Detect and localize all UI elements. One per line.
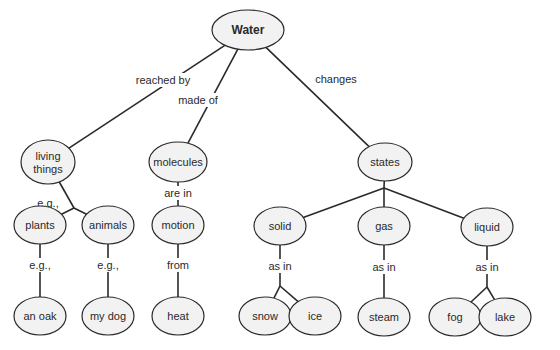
node-label: gas [375,220,393,232]
concept-node-plants: plants [14,206,66,244]
node-label: snow [252,310,278,322]
link-label: e.g., [29,259,50,271]
node-label: heat [167,310,188,322]
edge-water-states [266,47,369,146]
link-label: made of [178,94,219,106]
concept-node-living: livingthings [21,140,75,184]
concept-node-lake: lake [479,298,531,336]
node-label: things [33,163,63,175]
concept-node-states: states [358,143,412,181]
edge-junction-snow [274,286,280,298]
node-label: living [35,150,60,162]
link-label: as in [372,261,395,273]
edge-junction-ice [280,286,298,302]
edge-junction-lake [487,287,495,300]
node-label: an oak [23,310,57,322]
node-label: liquid [474,221,500,233]
concept-node-anoak: an oak [14,297,66,335]
node-label: states [370,156,400,168]
link-label: reached by [136,74,191,86]
concept-node-animals: animals [82,206,134,244]
node-label: my dog [90,310,126,322]
concept-node-heat: heat [152,297,204,335]
link-label: from [167,259,189,271]
concept-node-ice: ice [289,297,341,335]
concept-node-snow: snow [239,297,291,335]
concept-node-steam: steam [358,298,410,336]
edge-junction-animals [74,208,87,214]
node-label: ice [308,310,322,322]
nodes-layer: Waterlivingthingsmoleculesstatesplantsan… [14,10,531,336]
concept-node-solid: solid [254,207,306,245]
node-label: solid [269,220,292,232]
concept-node-motion: motion [152,206,204,244]
link-label: are in [164,187,192,199]
node-label: molecules [153,156,203,168]
concept-node-fog: fog [429,298,481,336]
link-label: changes [315,73,357,85]
node-label: motion [161,219,194,231]
edge-junction-fog [471,287,487,302]
node-label: Water [232,23,265,37]
node-label: lake [495,311,515,323]
node-label: plants [25,219,55,231]
concept-map-water: reached bymade ofchangese.g.,are incan b… [0,0,560,350]
concept-node-liquid: liquid [461,208,513,246]
concept-node-molecules: molecules [149,142,207,182]
concept-node-gas: gas [358,207,410,245]
node-label: animals [89,219,127,231]
concept-node-water: Water [212,10,284,50]
node-label: fog [447,311,462,323]
link-labels-layer: reached bymade ofchangese.g.,are incan b… [23,72,504,274]
concept-node-mydog: my dog [82,297,134,335]
link-label: e.g., [97,259,118,271]
link-label: as in [475,261,498,273]
node-label: steam [369,311,399,323]
link-label: as in [268,260,291,272]
